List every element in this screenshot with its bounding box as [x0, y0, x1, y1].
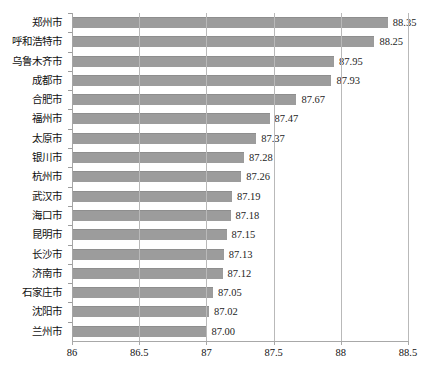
- bar-value-label: 88.25: [379, 33, 403, 50]
- category-axis: 郑州市呼和浩特市乌鲁木齐市成都市合肥市福州市太原市银川市杭州市武汉市海口市昆明市…: [0, 13, 68, 341]
- x-axis-line: [72, 341, 409, 342]
- category-label: 石家庄市: [0, 283, 62, 302]
- category-label: 海口市: [0, 206, 62, 225]
- bar-value-label: 87.67: [301, 91, 325, 108]
- bar-value-label: 87.18: [236, 207, 260, 224]
- bar-row: 87.28: [72, 148, 408, 167]
- bar-row: 87.15: [72, 225, 408, 244]
- category-label: 成都市: [0, 71, 62, 90]
- bar-row: 87.67: [72, 90, 408, 109]
- bar-row: 87.18: [72, 206, 408, 225]
- bar-value-label: 87.95: [339, 53, 363, 70]
- category-label: 合肥市: [0, 90, 62, 109]
- y-tick-mark: [68, 264, 72, 265]
- category-label: 沈阳市: [0, 302, 62, 321]
- category-label: 乌鲁木齐市: [0, 52, 62, 71]
- x-tick-label: 87.5: [264, 346, 282, 360]
- bar-value-label: 87.19: [237, 188, 261, 205]
- bar: [72, 249, 224, 260]
- bar-row: 87.37: [72, 129, 408, 148]
- bar-value-label: 87.15: [232, 226, 256, 243]
- bar-row: 87.26: [72, 167, 408, 186]
- y-tick-mark: [68, 206, 72, 207]
- y-tick-mark: [68, 148, 72, 149]
- bar-row: 87.93: [72, 71, 408, 90]
- bar-row: 87.13: [72, 245, 408, 264]
- bar: [72, 56, 334, 67]
- category-label: 呼和浩特市: [0, 32, 62, 51]
- x-tick-mark: [408, 341, 409, 345]
- x-tick-mark: [139, 341, 140, 345]
- bar-chart: 郑州市呼和浩特市乌鲁木齐市成都市合肥市福州市太原市银川市杭州市武汉市海口市昆明市…: [0, 0, 432, 373]
- y-tick-mark: [68, 52, 72, 53]
- x-tick-label: 87: [201, 346, 212, 360]
- bar: [72, 75, 331, 86]
- y-tick-mark: [68, 71, 72, 72]
- bar-row: 87.00: [72, 322, 408, 341]
- bar-row: 88.35: [72, 13, 408, 32]
- y-tick-mark: [68, 90, 72, 91]
- bar-value-label: 87.13: [229, 246, 253, 263]
- y-tick-mark: [68, 13, 72, 14]
- bar: [72, 268, 223, 279]
- bar-row: 87.19: [72, 187, 408, 206]
- bar-value-label: 87.26: [246, 168, 270, 185]
- bar-row: 87.02: [72, 302, 408, 321]
- y-axis-line: [72, 13, 73, 341]
- x-tick-mark: [72, 341, 73, 345]
- y-tick-mark: [68, 225, 72, 226]
- category-label: 福州市: [0, 109, 62, 128]
- bar-row: 87.47: [72, 109, 408, 128]
- bar-row: 87.05: [72, 283, 408, 302]
- y-tick-mark: [68, 167, 72, 168]
- y-tick-mark: [68, 109, 72, 110]
- gridline: [206, 13, 207, 341]
- category-label: 长沙市: [0, 245, 62, 264]
- gridline: [274, 13, 275, 341]
- category-label: 昆明市: [0, 225, 62, 244]
- y-tick-mark: [68, 302, 72, 303]
- x-tick-label: 88: [336, 346, 347, 360]
- bar-value-label: 88.35: [393, 14, 417, 31]
- bar-value-label: 87.02: [214, 303, 238, 320]
- bar-value-label: 87.28: [249, 149, 273, 166]
- bar-row: 87.95: [72, 52, 408, 71]
- bar: [72, 191, 232, 202]
- category-label: 济南市: [0, 264, 62, 283]
- category-label: 武汉市: [0, 187, 62, 206]
- bar-row: 88.25: [72, 32, 408, 51]
- x-tick-mark: [274, 341, 275, 345]
- bar-value-label: 87.00: [211, 323, 235, 340]
- gridline: [408, 13, 409, 341]
- bar: [72, 36, 374, 47]
- category-label: 银川市: [0, 148, 62, 167]
- bar: [72, 133, 256, 144]
- y-tick-mark: [68, 322, 72, 323]
- x-tick-label: 88.5: [399, 346, 417, 360]
- bar: [72, 113, 270, 124]
- bar-series: 88.3588.2587.9587.9387.6787.4787.3787.28…: [72, 13, 408, 341]
- x-tick-mark: [341, 341, 342, 345]
- y-tick-mark: [68, 187, 72, 188]
- bar: [72, 152, 244, 163]
- bar: [72, 229, 227, 240]
- bar: [72, 306, 209, 317]
- y-tick-mark: [68, 32, 72, 33]
- bar-value-label: 87.47: [275, 110, 299, 127]
- category-label: 郑州市: [0, 13, 62, 32]
- bar: [72, 287, 213, 298]
- bar: [72, 171, 241, 182]
- gridline: [139, 13, 140, 341]
- bar-value-label: 87.05: [218, 284, 242, 301]
- y-tick-mark: [68, 129, 72, 130]
- plot-area: 88.3588.2587.9587.9387.6787.4787.3787.28…: [72, 13, 408, 341]
- x-tick-mark: [206, 341, 207, 345]
- bar: [72, 94, 296, 105]
- bar-value-label: 87.12: [228, 265, 252, 282]
- category-label: 兰州市: [0, 322, 62, 341]
- bar-row: 87.12: [72, 264, 408, 283]
- y-tick-mark: [68, 283, 72, 284]
- gridline: [341, 13, 342, 341]
- x-tick-label: 86: [67, 346, 78, 360]
- y-tick-mark: [68, 245, 72, 246]
